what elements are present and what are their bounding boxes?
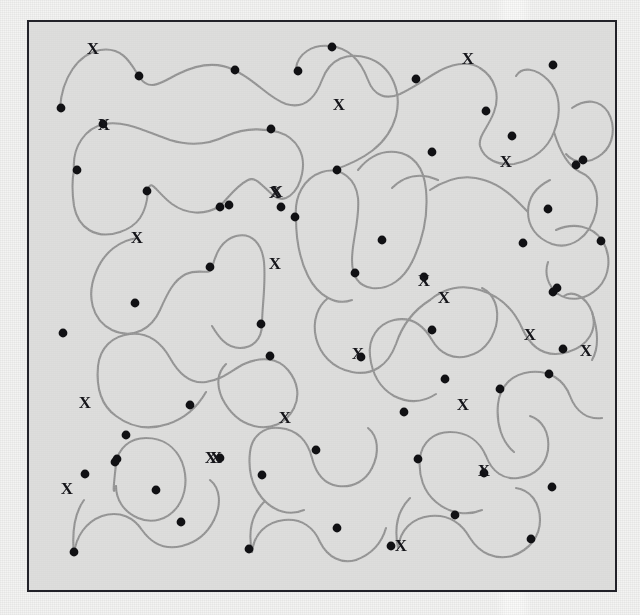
figure-frame (27, 20, 617, 592)
paper-texture (29, 22, 615, 590)
figure-root: XXXXXXXXXXXXXXXXXXXXXX (0, 0, 640, 615)
